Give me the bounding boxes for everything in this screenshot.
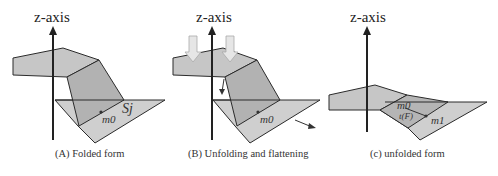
z-axis-label: z-axis xyxy=(34,9,70,26)
z-axis-label: z-axis xyxy=(196,9,232,26)
caption-c: (c) unfolded form xyxy=(370,148,445,159)
surface-sj-label: Sj xyxy=(122,101,133,117)
panel-folded-form: z-axis m0 Sj (A) Folded form xyxy=(0,0,170,176)
point-m0-label: m0 xyxy=(260,113,273,125)
point-m1-label: m1 xyxy=(431,114,444,126)
caption-b: (B) Unfolding and flattening xyxy=(188,148,308,159)
point-m0-label: m0 xyxy=(397,99,410,111)
caption-a: (A) Folded form xyxy=(55,148,124,159)
function-tf-label: t(F) xyxy=(399,111,413,121)
panel-unfolded-form: z-axis m0 t(F) m1 (c) unfolded form xyxy=(320,0,498,176)
panel-unfolding: z-axis m0 (B) Unfolding and flattening xyxy=(160,0,340,176)
z-axis-label: z-axis xyxy=(350,9,386,26)
point-m0-label: m0 xyxy=(102,113,115,125)
